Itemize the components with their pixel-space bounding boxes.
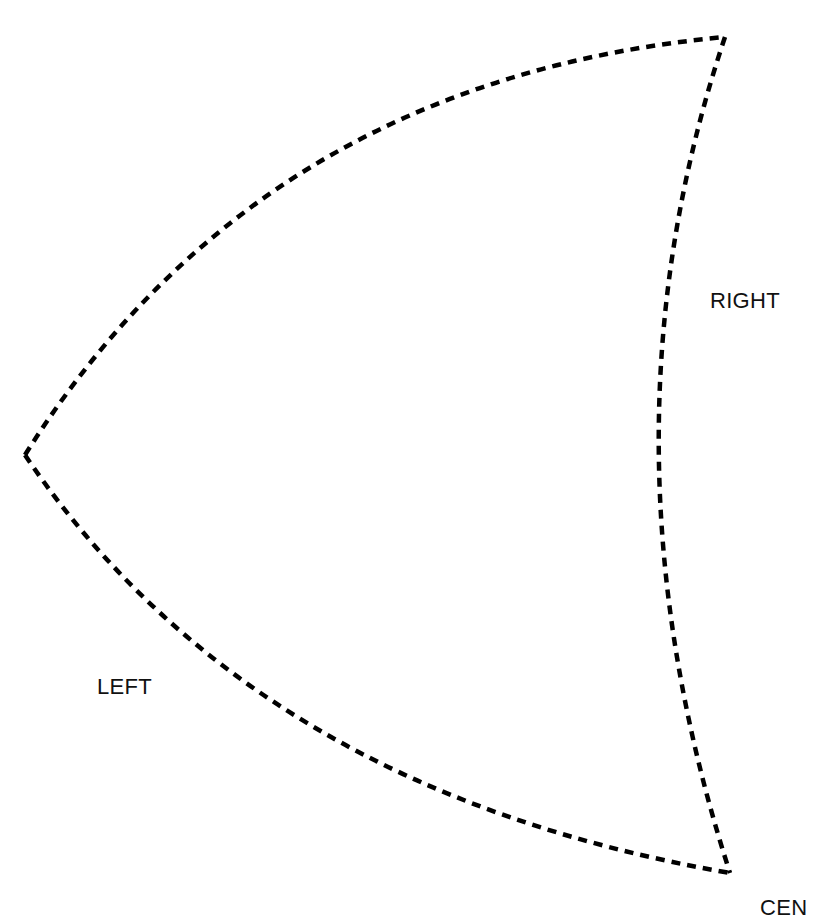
label-center: CEN — [760, 895, 807, 915]
label-right: RIGHT — [710, 288, 780, 314]
bottom-edge — [25, 455, 730, 873]
diagram-canvas — [0, 0, 817, 915]
label-left: LEFT — [97, 674, 152, 700]
right-edge — [659, 37, 730, 873]
top-edge — [25, 37, 725, 455]
